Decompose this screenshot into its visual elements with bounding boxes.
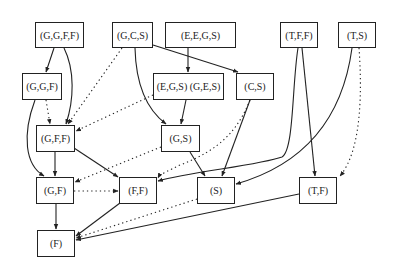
edge-tf-f (76, 194, 299, 240)
node-ts: (T,S) (338, 22, 376, 48)
node-f: (F) (37, 230, 75, 257)
edge-gcs-cs (153, 45, 238, 72)
node-ff: (F,F) (119, 177, 157, 204)
edge-egs-gs (181, 100, 186, 124)
edge-ggff-ggf (46, 48, 54, 72)
node-gcs: (G,C,S) (112, 22, 153, 48)
node-eegs: (E,E,G,S) (165, 22, 236, 48)
edge-ggff-gff (64, 48, 72, 124)
edge-egs-gff (76, 95, 153, 131)
edge-gff-ff (74, 148, 118, 177)
node-tff: (T,F,F) (280, 22, 318, 48)
edge-gcs-gff (68, 48, 122, 124)
node-tf: (T,F) (299, 177, 337, 204)
node-ggf: (G,G,F) (22, 73, 62, 100)
edge-ggf-gff (46, 100, 50, 124)
node-egs-ges: (E,G,S) (G,E,S) (153, 73, 224, 100)
node-s: (S) (197, 177, 235, 204)
edge-ts-tf (340, 48, 360, 176)
node-gs: (G,S) (161, 125, 200, 152)
node-cs: (C,S) (236, 73, 274, 100)
node-gf: (G,F) (36, 177, 74, 204)
node-gff: (G,F,F) (36, 125, 75, 152)
edge-tff-tf (302, 48, 315, 176)
node-ggff: (G,G,F,F) (35, 22, 84, 48)
